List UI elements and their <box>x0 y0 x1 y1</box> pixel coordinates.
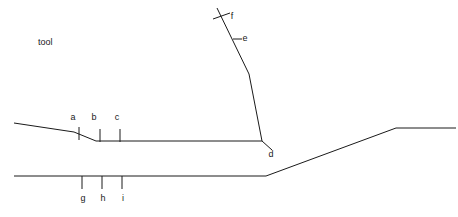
point-label-e: e <box>242 34 247 43</box>
point-label-h: h <box>100 194 105 203</box>
point-label-b: b <box>91 113 96 122</box>
tick-marks-group <box>79 13 242 189</box>
point-label-c: c <box>115 113 120 122</box>
lower-profile <box>14 128 456 176</box>
point-label-i: i <box>122 194 124 203</box>
point-label-d: d <box>268 150 273 159</box>
point-label-g: g <box>80 194 85 203</box>
point-label-f: f <box>231 12 234 21</box>
technical-line-diagram: abcdefghi tool <box>0 0 458 217</box>
tool-caption: tool <box>38 38 53 47</box>
point-label-a: a <box>70 113 75 122</box>
steep-descending-line <box>217 8 272 150</box>
diagram-canvas <box>0 0 458 217</box>
profile-lines-group <box>14 8 456 176</box>
upper-profile <box>14 123 262 141</box>
